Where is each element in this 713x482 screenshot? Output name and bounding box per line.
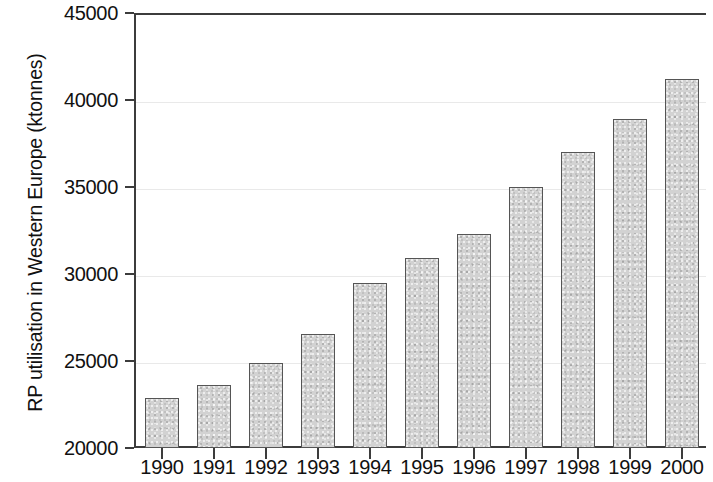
bar-1990: [145, 398, 179, 448]
y-axis-tick: [125, 273, 134, 275]
bar-1992: [249, 363, 283, 448]
y-axis-tick: [125, 99, 134, 101]
y-axis-title: RP utilisation in Western Europe (ktonne…: [24, 0, 47, 468]
y-axis-tick-label: 30000: [0, 264, 118, 284]
bar-1991: [197, 385, 231, 448]
x-axis-tick-label: 2000: [637, 455, 713, 479]
bar-1999: [613, 119, 647, 448]
bar-1997: [509, 187, 543, 448]
y-axis-tick-label: 40000: [0, 90, 118, 110]
bar-1995: [405, 258, 439, 448]
bar-1994: [353, 283, 387, 448]
bars-layer: [134, 13, 706, 448]
y-axis-tick: [125, 186, 134, 188]
bar-1998: [561, 152, 595, 448]
y-axis-tick-label: 35000: [0, 177, 118, 197]
y-axis-tick-label: 45000: [0, 3, 118, 23]
y-axis-tick: [125, 360, 134, 362]
y-axis-tick: [125, 12, 134, 14]
y-axis-tick-label: 20000: [0, 438, 118, 458]
bar-1993: [301, 334, 335, 448]
bar-chart: RP utilisation in Western Europe (ktonne…: [0, 0, 713, 482]
y-axis-tick-label: 25000: [0, 351, 118, 371]
y-axis-tick: [125, 447, 134, 449]
bar-1996: [457, 234, 491, 448]
bar-2000: [665, 79, 699, 448]
